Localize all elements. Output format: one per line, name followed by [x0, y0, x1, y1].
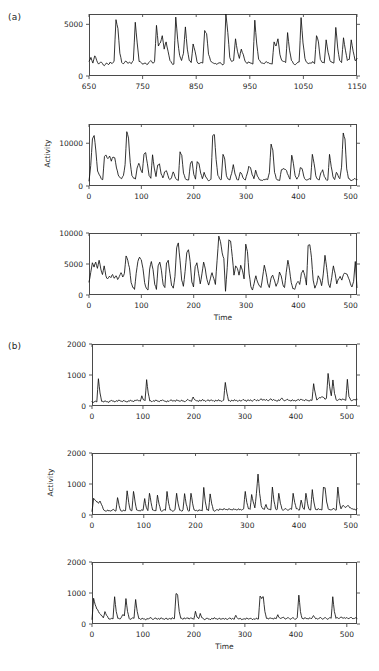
figure-container: (a) (b) 0500065075085095010501150 010000…: [0, 0, 379, 671]
x-tick-label: 400: [289, 630, 303, 639]
y-tick-label: 1000: [0, 589, 86, 598]
x-tick-label: 0: [90, 630, 95, 639]
x-tick-label: 200: [187, 630, 201, 639]
plot-trace-layer-b3: [92, 562, 357, 638]
chart-panel-b3: 0100020000100200300400500Time: [0, 0, 379, 671]
x-axis-title: Time: [215, 642, 233, 651]
y-tick-label: 0: [0, 620, 86, 629]
y-tick-label: 2000: [0, 558, 86, 567]
x-tick-label: 300: [238, 630, 252, 639]
x-tick-label: 100: [136, 630, 150, 639]
x-tick-label: 500: [340, 630, 354, 639]
